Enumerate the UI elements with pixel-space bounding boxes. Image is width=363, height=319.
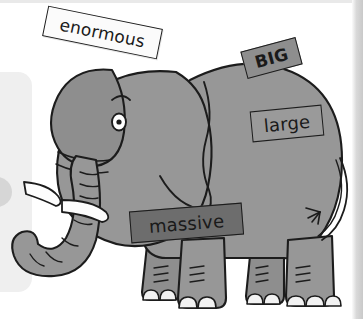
eye-pupil bbox=[116, 119, 121, 124]
illustration-canvas: enormous BIG large massive bbox=[0, 0, 363, 319]
tusk-left bbox=[24, 182, 61, 206]
page-right-strip bbox=[352, 0, 363, 319]
elephant-icon bbox=[0, 0, 363, 319]
